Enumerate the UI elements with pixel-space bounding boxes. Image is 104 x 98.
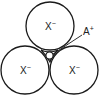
anion-bottom-left: X− xyxy=(1,46,49,94)
ionic-packing-diagram: X− X− X− A+ xyxy=(0,0,104,98)
cation-circle xyxy=(46,52,53,59)
anion-top: X− xyxy=(26,2,74,50)
cation-label: A+ xyxy=(83,25,94,37)
anion-bottom-right: X− xyxy=(50,46,98,94)
